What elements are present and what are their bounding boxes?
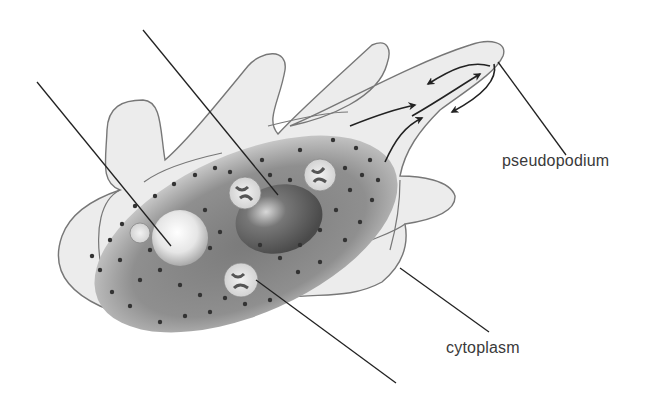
label-cytoplasm: cytoplasm (446, 339, 520, 357)
label-pseudopodium: pseudopodium (502, 152, 609, 170)
contractile-vacuole (152, 210, 208, 266)
leader-line-pseudopodium (498, 62, 566, 155)
leader-line-cytoplasm (400, 268, 489, 332)
amoeba-diagram (0, 0, 662, 400)
